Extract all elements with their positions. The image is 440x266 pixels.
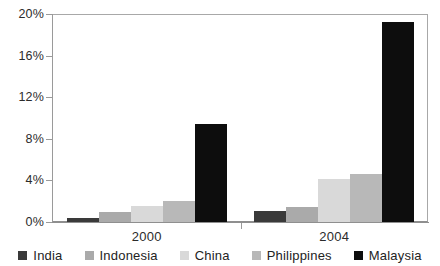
bar-china-2000: [131, 206, 163, 222]
bar-philippines-2004: [350, 174, 382, 222]
legend-label: Indonesia: [100, 249, 158, 262]
bar-indonesia-2004: [286, 207, 318, 222]
y-axis-tick: [46, 139, 52, 140]
y-axis-tick: [46, 180, 52, 181]
y-axis-tick: [46, 97, 52, 98]
chart-title-cropped: [0, 0, 440, 7]
legend-swatch-icon: [85, 251, 94, 260]
x-axis-group-separator-tick: [241, 223, 242, 229]
y-axis-tick-label: 4%: [0, 174, 44, 187]
y-axis-tick-label: 0%: [0, 216, 44, 229]
bar-india-2004: [254, 211, 286, 222]
y-axis-tick: [46, 14, 52, 15]
bar-indonesia-2000: [99, 212, 131, 222]
legend-label: Malaysia: [369, 249, 422, 262]
y-axis-tick-label: 12%: [0, 91, 44, 104]
legend-swatch-icon: [354, 251, 363, 260]
legend-label: Philippines: [267, 249, 332, 262]
bar-china-2004: [318, 179, 350, 222]
legend-label: India: [33, 249, 62, 262]
legend-item-india[interactable]: India: [18, 249, 62, 262]
bar-philippines-2000: [163, 201, 195, 222]
legend-item-china[interactable]: China: [180, 249, 230, 262]
chart-container: 20%16%12%8%4%0% 20002004 IndiaIndonesiaC…: [0, 0, 440, 266]
y-axis-tick: [46, 222, 52, 223]
legend-label: China: [195, 249, 230, 262]
bar-malaysia-2004: [382, 22, 414, 222]
y-axis-tick: [46, 56, 52, 57]
bar-malaysia-2000: [195, 124, 227, 222]
legend-item-philippines[interactable]: Philippines: [252, 249, 332, 262]
x-axis-label-2004: 2004: [294, 230, 374, 244]
y-axis-tick-label: 16%: [0, 50, 44, 63]
x-axis-label-2000: 2000: [107, 230, 187, 244]
chart-legend: IndiaIndonesiaChinaPhilippinesMalaysia: [0, 246, 440, 264]
legend-swatch-icon: [18, 251, 27, 260]
legend-item-malaysia[interactable]: Malaysia: [354, 249, 422, 262]
legend-item-indonesia[interactable]: Indonesia: [85, 249, 158, 262]
bars-layer: [53, 14, 428, 222]
y-axis-tick-label: 8%: [0, 133, 44, 146]
legend-swatch-icon: [252, 251, 261, 260]
bar-india-2000: [67, 218, 99, 222]
y-axis-tick-label: 20%: [0, 8, 44, 21]
legend-swatch-icon: [180, 251, 189, 260]
